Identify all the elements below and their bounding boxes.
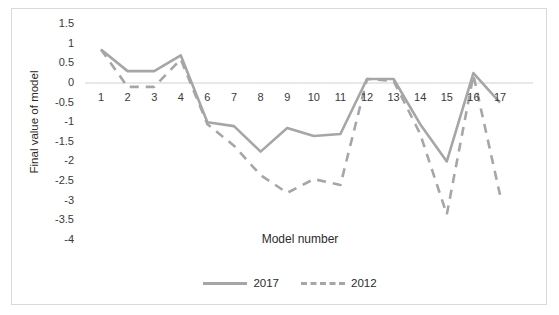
chart-container: 1.510.50-0.5-1-1.5-2-2.5-3-3.5-4 1234678… [0,0,559,315]
series-line-2017 [101,50,500,162]
y-tick-label: 0.5 [40,56,74,68]
y-tick-label: -3.5 [40,213,74,225]
x-tick-label: 8 [248,91,274,103]
y-axis-title: Final value of model [28,52,40,192]
y-tick-label: 1 [40,37,74,49]
legend: 2017 2012 [160,272,420,294]
y-tick-label: -1.5 [40,135,74,147]
x-tick-label: 9 [274,91,300,103]
series-lines [0,0,559,315]
x-tick-label: 10 [301,91,327,103]
y-tick-label: -0.5 [40,96,74,108]
x-tick-label: 3 [141,91,167,103]
y-tick-label: -2 [40,154,74,166]
y-tick-label: 1.5 [40,17,74,29]
legend-item-2017: 2017 [203,277,279,289]
y-tick-label: 0 [40,76,74,88]
x-tick-label: 13 [381,91,407,103]
plot-area: 1.510.50-0.5-1-1.5-2-2.5-3-3.5-4 1234678… [0,0,559,315]
x-tick-label: 11 [327,91,353,103]
y-tick-label: -2.5 [40,174,74,186]
x-tick-label: 12 [354,91,380,103]
y-tick-label: -3 [40,194,74,206]
x-tick-label: 1 [88,91,114,103]
x-tick-label: 6 [194,91,220,103]
x-tick-label: 17 [487,91,513,103]
legend-label: 2017 [253,277,279,289]
y-tick-label: -4 [40,233,74,245]
x-tick-label: 7 [221,91,247,103]
legend-swatch-solid-icon [203,282,247,285]
legend-label: 2012 [351,277,377,289]
legend-item-2012: 2012 [301,277,377,289]
y-tick-label: -1 [40,115,74,127]
legend-swatch-dashed-icon [301,282,345,285]
x-tick-label: 15 [434,91,460,103]
x-tick-label: 2 [115,91,141,103]
x-axis-title: Model number [180,232,420,246]
x-tick-label: 16 [460,91,486,103]
x-tick-label: 14 [407,91,433,103]
x-tick-label: 4 [168,91,194,103]
